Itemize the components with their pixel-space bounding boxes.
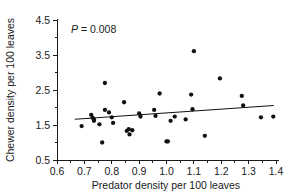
y-tick-label: 3.5 bbox=[35, 49, 50, 61]
x-tick-label: 1.3 bbox=[241, 165, 256, 177]
p-value-annotation: P = 0.008 bbox=[71, 23, 116, 35]
y-tick-label: 1.5 bbox=[35, 119, 50, 131]
data-point bbox=[127, 132, 131, 136]
data-point bbox=[203, 134, 207, 138]
scatter-plot-figure: 0.51.52.53.54.5 0.60.70.80.91.01.11.21.3… bbox=[0, 0, 295, 194]
data-point bbox=[111, 121, 115, 125]
y-axis-title: Chewer density per 100 leaves bbox=[4, 18, 16, 162]
data-point bbox=[192, 49, 196, 53]
x-tick-label: 1.4 bbox=[269, 165, 284, 177]
data-point bbox=[184, 117, 188, 121]
chart-canvas: 0.51.52.53.54.5 0.60.70.80.91.01.11.21.3… bbox=[0, 0, 295, 194]
data-point bbox=[107, 110, 111, 114]
x-tick-label: 1.1 bbox=[187, 165, 202, 177]
data-point bbox=[79, 124, 83, 128]
y-tick-label: 4.5 bbox=[35, 14, 50, 26]
x-tick-label: 0.8 bbox=[104, 165, 119, 177]
data-point bbox=[259, 115, 263, 119]
x-tick-label: 0.7 bbox=[77, 165, 92, 177]
data-point bbox=[271, 114, 275, 118]
x-axis: 0.60.70.80.91.01.11.21.31.4 bbox=[50, 160, 284, 177]
data-point bbox=[241, 103, 245, 107]
data-point bbox=[103, 81, 107, 85]
data-point bbox=[100, 140, 104, 144]
data-point bbox=[240, 94, 244, 98]
data-point bbox=[153, 114, 157, 118]
data-point bbox=[103, 108, 107, 112]
y-tick-label: 0.5 bbox=[35, 154, 50, 166]
x-tick-label: 0.6 bbox=[50, 165, 65, 177]
data-point bbox=[173, 114, 177, 118]
data-point bbox=[158, 91, 162, 95]
x-tick-label: 0.9 bbox=[132, 165, 147, 177]
data-point bbox=[189, 92, 193, 96]
data-point bbox=[130, 128, 134, 132]
data-point bbox=[152, 108, 156, 112]
y-tick-label: 2.5 bbox=[35, 84, 50, 96]
x-tick-label: 1.2 bbox=[214, 165, 229, 177]
data-point bbox=[166, 139, 170, 143]
p-symbol: P bbox=[71, 23, 78, 35]
data-point bbox=[97, 122, 101, 126]
p-value-text: = 0.008 bbox=[78, 23, 116, 35]
data-point bbox=[168, 119, 172, 123]
data-point bbox=[122, 100, 126, 104]
x-tick-label: 1.0 bbox=[159, 165, 174, 177]
x-axis-title: Predator density per 100 leaves bbox=[92, 179, 240, 191]
data-point bbox=[218, 76, 222, 80]
